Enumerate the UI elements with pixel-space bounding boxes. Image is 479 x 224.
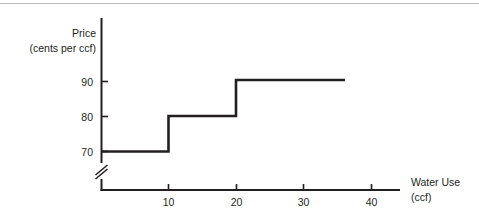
y-tick-label-70: 70: [81, 146, 93, 158]
x-axis-units: (ccf): [411, 191, 431, 203]
x-tick-label-20: 20: [231, 196, 243, 208]
x-tick-label-10: 10: [163, 196, 175, 208]
y-axis-title: Price: [72, 27, 96, 39]
y-tick-label-90: 90: [81, 76, 93, 88]
x-axis-title: Water Use: [411, 176, 460, 188]
step-chart-figure: 90 80 70 10 20 30 40 Price (cents per cc…: [0, 0, 479, 224]
y-axis-units: (cents per ccf): [29, 42, 96, 54]
x-tick-label-30: 30: [298, 196, 310, 208]
y-axis-break-icon: [96, 163, 109, 179]
price-step-line: [102, 80, 346, 152]
chart-canvas: 90 80 70 10 20 30 40 Price (cents per cc…: [0, 0, 479, 224]
x-tick-label-40: 40: [366, 196, 378, 208]
y-tick-label-80: 80: [81, 111, 93, 123]
